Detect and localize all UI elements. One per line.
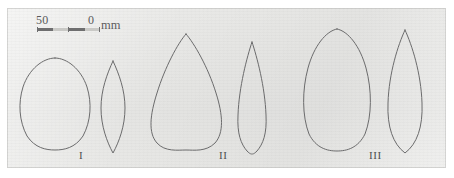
- group-label-i: I: [79, 150, 83, 161]
- leaf-II-narrow: [233, 41, 271, 155]
- scale-bar-right-label: 0: [88, 14, 94, 26]
- leaf-III-broad: [302, 28, 374, 152]
- scale-tick: [37, 27, 38, 32]
- scale-segment: [69, 28, 85, 31]
- scale-bar-left-label: 50: [36, 14, 48, 26]
- leaf-I-broad: [19, 57, 91, 151]
- scale-tick: [99, 27, 100, 32]
- leaf-II-broad: [150, 33, 226, 151]
- scale-segment: [85, 28, 100, 31]
- scale-segment: [37, 28, 53, 31]
- figure-plate: 50 0 mm IIIIII: [0, 0, 454, 178]
- leaf-III-narrow: [385, 29, 427, 154]
- scale-segment: [53, 28, 69, 31]
- scale-bar-ticks: [37, 28, 100, 32]
- scale-bar-unit-label: mm: [101, 19, 120, 32]
- group-label-ii: II: [219, 150, 228, 161]
- leaf-I-narrow: [98, 60, 130, 154]
- scale-tick: [68, 27, 69, 32]
- group-label-iii: III: [369, 150, 382, 161]
- scale-bar: 50 0 mm: [33, 13, 138, 37]
